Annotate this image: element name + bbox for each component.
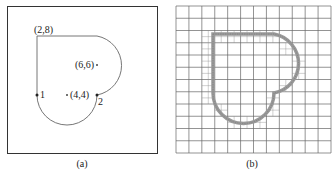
center-4-4-marker: [66, 94, 68, 96]
panel-a-frame: [8, 7, 158, 154]
caption-b: (b): [246, 158, 258, 170]
panel-a: (2,8) (6,6) (4,4) 1 2 (a): [8, 7, 158, 171]
label-point-1: 1: [40, 89, 45, 100]
label-4-4: (4,4): [70, 89, 89, 101]
point-1-marker: [36, 94, 39, 97]
center-6-6-marker: [96, 64, 98, 66]
panel-b: (b): [176, 6, 331, 170]
label-2-8: (2,8): [34, 24, 53, 36]
figure: (2,8) (6,6) (4,4) 1 2 (a) (b): [0, 0, 333, 176]
label-point-2: 2: [98, 96, 103, 107]
label-6-6: (6,6): [75, 59, 94, 71]
shape-outline: [37, 36, 122, 125]
coarse-grid: [176, 6, 331, 153]
caption-a: (a): [76, 158, 87, 170]
